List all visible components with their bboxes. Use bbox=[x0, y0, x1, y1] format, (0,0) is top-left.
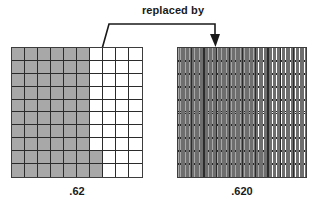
grid-cell bbox=[280, 74, 293, 87]
grid-cell bbox=[242, 138, 255, 151]
grid-cell bbox=[25, 74, 38, 87]
decimal-equivalence-figure: replaced by .62 .620 bbox=[0, 0, 315, 210]
left-grid-frame bbox=[11, 47, 143, 178]
grid-cell bbox=[129, 48, 142, 61]
grid-cell bbox=[77, 112, 90, 125]
grid-cell bbox=[204, 112, 217, 125]
grid-cell bbox=[280, 112, 293, 125]
grid-cell bbox=[191, 125, 204, 138]
grid-cell bbox=[293, 100, 306, 113]
grid-cell bbox=[77, 164, 90, 177]
grid-cell bbox=[77, 87, 90, 100]
grid-cell bbox=[25, 125, 38, 138]
grid-cell bbox=[12, 87, 25, 100]
grid-cell bbox=[229, 164, 242, 177]
grid-cell bbox=[12, 61, 25, 74]
grid-cell bbox=[116, 151, 129, 164]
grid-cell bbox=[229, 100, 242, 113]
grid-cell bbox=[90, 112, 103, 125]
grid-cell bbox=[64, 151, 77, 164]
grid-cell bbox=[103, 125, 116, 138]
grid-cell bbox=[64, 138, 77, 151]
grid-cell bbox=[129, 74, 142, 87]
grid-cell bbox=[293, 61, 306, 74]
grid-cell bbox=[64, 164, 77, 177]
grid-cell bbox=[178, 164, 191, 177]
grid-cell bbox=[255, 112, 268, 125]
grid-cell bbox=[268, 151, 281, 164]
grid-cell bbox=[293, 138, 306, 151]
right-grid-cells bbox=[178, 48, 306, 177]
grid-cell bbox=[268, 125, 281, 138]
grid-cell bbox=[268, 112, 281, 125]
grid-cell bbox=[77, 48, 90, 61]
grid-cell bbox=[216, 164, 229, 177]
grid-cell bbox=[216, 125, 229, 138]
grid-cell bbox=[229, 74, 242, 87]
grid-cell bbox=[129, 112, 142, 125]
grid-cell bbox=[178, 61, 191, 74]
replaced-by-arrow-icon bbox=[100, 20, 225, 50]
grid-cell bbox=[204, 74, 217, 87]
grid-cell bbox=[204, 151, 217, 164]
grid-cell bbox=[38, 112, 51, 125]
grid-cell bbox=[90, 151, 103, 164]
grid-cell bbox=[191, 151, 204, 164]
grid-cell bbox=[268, 87, 281, 100]
grid-cell bbox=[51, 48, 64, 61]
grid-cell bbox=[116, 61, 129, 74]
grid-cell bbox=[77, 100, 90, 113]
grid-cell bbox=[280, 61, 293, 74]
grid-cell bbox=[229, 151, 242, 164]
grid-cell bbox=[229, 61, 242, 74]
grid-cell bbox=[64, 61, 77, 74]
grid-cell bbox=[242, 61, 255, 74]
right-decimal-grid: .620 bbox=[177, 47, 307, 178]
grid-cell bbox=[90, 125, 103, 138]
grid-cell bbox=[216, 61, 229, 74]
grid-cell bbox=[255, 74, 268, 87]
grid-cell bbox=[129, 125, 142, 138]
grid-cell bbox=[280, 164, 293, 177]
grid-cell bbox=[204, 125, 217, 138]
grid-cell bbox=[293, 112, 306, 125]
grid-cell bbox=[103, 138, 116, 151]
grid-cell bbox=[280, 87, 293, 100]
grid-cell bbox=[116, 74, 129, 87]
grid-cell bbox=[229, 48, 242, 61]
grid-cell bbox=[12, 74, 25, 87]
grid-cell bbox=[268, 61, 281, 74]
grid-cell bbox=[178, 48, 191, 61]
grid-cell bbox=[268, 138, 281, 151]
grid-cell bbox=[216, 74, 229, 87]
grid-cell bbox=[51, 138, 64, 151]
grid-cell bbox=[90, 87, 103, 100]
grid-cell bbox=[90, 74, 103, 87]
grid-cell bbox=[293, 74, 306, 87]
grid-cell bbox=[116, 125, 129, 138]
grid-cell bbox=[229, 112, 242, 125]
grid-cell bbox=[25, 87, 38, 100]
grid-cell bbox=[204, 87, 217, 100]
grid-cell bbox=[216, 100, 229, 113]
grid-cell bbox=[191, 74, 204, 87]
grid-cell bbox=[255, 100, 268, 113]
grid-cell bbox=[103, 151, 116, 164]
grid-cell bbox=[178, 100, 191, 113]
grid-cell bbox=[116, 138, 129, 151]
grid-cell bbox=[268, 164, 281, 177]
grid-cell bbox=[64, 125, 77, 138]
grid-cell bbox=[242, 100, 255, 113]
grid-cell bbox=[216, 151, 229, 164]
grid-cell bbox=[129, 87, 142, 100]
grid-cell bbox=[280, 151, 293, 164]
grid-cell bbox=[255, 138, 268, 151]
grid-cell bbox=[25, 100, 38, 113]
left-value-label: .62 bbox=[11, 185, 143, 197]
grid-cell bbox=[178, 125, 191, 138]
grid-cell bbox=[12, 100, 25, 113]
grid-cell bbox=[25, 48, 38, 61]
grid-cell bbox=[12, 125, 25, 138]
grid-cell bbox=[129, 164, 142, 177]
grid-cell bbox=[77, 138, 90, 151]
